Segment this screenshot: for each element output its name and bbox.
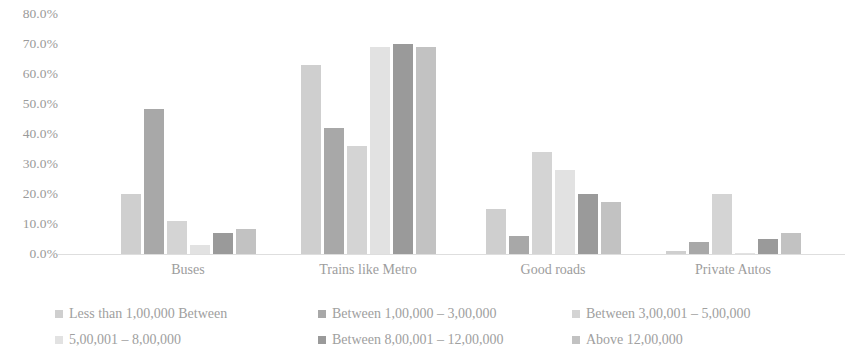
y-axis-tick-label: 0.0% — [2, 247, 58, 261]
category-label: Good roads — [478, 260, 628, 280]
bar — [735, 253, 755, 255]
bars-row — [658, 0, 808, 254]
bar — [416, 47, 436, 254]
plot-wrapper: 80.0%70.0%60.0%50.0%40.0%30.0%20.0%10.0%… — [0, 0, 849, 258]
legend-item[interactable]: Between 1,00,000 – 3,00,000 — [318, 305, 496, 323]
bar — [370, 47, 390, 254]
category-axis: BusesTrains like MetroGood roadsPrivate … — [58, 260, 849, 286]
bar — [190, 245, 210, 254]
bar — [712, 194, 732, 254]
bar-group — [293, 0, 443, 254]
bar-groups — [58, 0, 849, 254]
legend-label: Between 1,00,000 – 3,00,000 — [332, 305, 496, 323]
bar — [393, 44, 413, 254]
legend-swatch-icon — [318, 310, 326, 318]
axis-baseline — [58, 254, 845, 255]
y-axis-tick-label: 70.0% — [2, 37, 58, 51]
y-axis-tick-label: 80.0% — [2, 7, 58, 21]
legend-swatch-icon — [572, 336, 580, 344]
legend-swatch-icon — [55, 336, 63, 344]
y-axis-tick-label: 40.0% — [2, 127, 58, 141]
bars-row — [478, 0, 628, 254]
bar — [324, 128, 344, 254]
y-axis-tick-label: 20.0% — [2, 187, 58, 201]
legend-label: Above 12,00,000 — [586, 331, 683, 349]
plot-area — [58, 0, 849, 258]
category-label: Private Autos — [658, 260, 808, 280]
bar — [509, 236, 529, 254]
y-axis: 80.0%70.0%60.0%50.0%40.0%30.0%20.0%10.0%… — [0, 0, 58, 258]
bar — [532, 152, 552, 254]
bar — [781, 233, 801, 254]
bar — [301, 65, 321, 254]
bar — [144, 109, 164, 255]
legend-label: Between 8,00,001 – 12,00,000 — [332, 331, 503, 349]
category-label: Trains like Metro — [293, 260, 443, 280]
bars-row — [113, 0, 263, 254]
legend-item[interactable]: Less than 1,00,000 Between — [55, 305, 227, 323]
bar — [347, 146, 367, 254]
chart-legend: Less than 1,00,000 BetweenBetween 1,00,0… — [0, 300, 849, 357]
legend-label: Between 3,00,001 – 5,00,000 — [586, 305, 750, 323]
bar-chart: 80.0%70.0%60.0%50.0%40.0%30.0%20.0%10.0%… — [0, 0, 849, 357]
legend-item[interactable]: Between 8,00,001 – 12,00,000 — [318, 331, 503, 349]
y-axis-tick-label: 50.0% — [2, 97, 58, 111]
legend-swatch-icon — [55, 310, 63, 318]
y-axis-tick-label: 10.0% — [2, 217, 58, 231]
bar — [167, 221, 187, 254]
bar — [486, 209, 506, 254]
legend-swatch-icon — [572, 310, 580, 318]
bar-group — [658, 0, 808, 254]
bar — [601, 202, 621, 255]
bar-group — [478, 0, 628, 254]
bar — [578, 194, 598, 254]
legend-swatch-icon — [318, 336, 326, 344]
legend-item[interactable]: Between 3,00,001 – 5,00,000 — [572, 305, 750, 323]
y-axis-tick-label: 60.0% — [2, 67, 58, 81]
legend-item[interactable]: Above 12,00,000 — [572, 331, 683, 349]
legend-item[interactable]: 5,00,001 – 8,00,000 — [55, 331, 181, 349]
category-label: Buses — [113, 260, 263, 280]
bar-group — [113, 0, 263, 254]
bar — [555, 170, 575, 254]
bar — [666, 251, 686, 254]
y-axis-tick-label: 30.0% — [2, 157, 58, 171]
bars-row — [293, 0, 443, 254]
legend-label: 5,00,001 – 8,00,000 — [69, 331, 181, 349]
bar — [213, 233, 233, 254]
bar — [121, 194, 141, 254]
bar — [758, 239, 778, 254]
bar — [689, 242, 709, 254]
bar — [236, 229, 256, 255]
legend-label: Less than 1,00,000 Between — [69, 305, 227, 323]
